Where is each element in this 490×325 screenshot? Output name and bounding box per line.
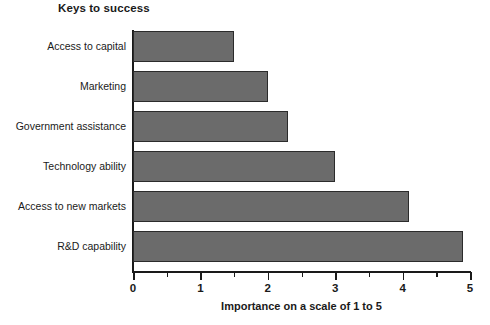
bar-row bbox=[133, 151, 335, 182]
bar-row bbox=[133, 71, 268, 102]
category-label: R&D capability bbox=[0, 231, 126, 262]
bar bbox=[133, 111, 288, 142]
x-tick-minor bbox=[234, 272, 235, 277]
chart-title: Keys to success bbox=[58, 2, 150, 14]
bar bbox=[133, 71, 268, 102]
category-label: Access to capital bbox=[0, 31, 126, 62]
bar bbox=[133, 31, 234, 62]
bar bbox=[133, 191, 409, 222]
x-tick-label: 4 bbox=[388, 282, 418, 294]
x-tick-label: 2 bbox=[253, 282, 283, 294]
x-tick-label: 3 bbox=[320, 282, 350, 294]
x-tick-minor bbox=[167, 272, 168, 277]
x-tick-minor bbox=[369, 272, 370, 277]
category-label: Government assistance bbox=[0, 111, 126, 142]
x-tick-label: 5 bbox=[455, 282, 485, 294]
bar bbox=[133, 151, 335, 182]
bar-chart: Keys to success Access to capitalMarketi… bbox=[0, 0, 490, 325]
bar bbox=[133, 231, 463, 262]
bar-row bbox=[133, 231, 463, 262]
x-tick-major bbox=[200, 272, 202, 280]
x-tick-label: 1 bbox=[185, 282, 215, 294]
x-tick-major bbox=[403, 272, 405, 280]
x-axis-title: Importance on a scale of 1 to 5 bbox=[133, 300, 470, 312]
x-tick-major bbox=[268, 272, 270, 280]
x-tick-major bbox=[133, 272, 135, 280]
category-label: Marketing bbox=[0, 71, 126, 102]
bar-row bbox=[133, 111, 288, 142]
category-label: Technology ability bbox=[0, 151, 126, 182]
x-tick-minor bbox=[302, 272, 303, 277]
bar-row bbox=[133, 31, 234, 62]
x-tick-major bbox=[470, 272, 472, 280]
x-tick-minor bbox=[436, 272, 437, 277]
bar-row bbox=[133, 191, 409, 222]
x-tick-major bbox=[335, 272, 337, 280]
category-label: Access to new markets bbox=[0, 191, 126, 222]
x-tick-label: 0 bbox=[118, 282, 148, 294]
